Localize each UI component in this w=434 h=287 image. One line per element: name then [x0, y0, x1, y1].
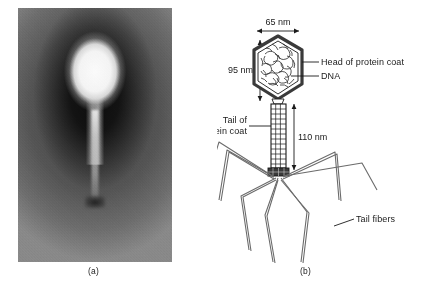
tail-fibers-label-leader: Tail fibers [334, 214, 396, 226]
tail-fiber-6b [283, 154, 341, 201]
phage-collar [272, 99, 284, 104]
tail-label-line2: protein coat [217, 126, 247, 136]
dna-label: DNA [321, 71, 340, 81]
tail-length-label: 110 nm [298, 132, 327, 142]
tail-label-line1: Tail of [223, 115, 248, 125]
tail-fibers [217, 142, 377, 263]
micrograph-tail-region [92, 110, 99, 201]
tail-sheath-body [271, 104, 286, 168]
tail-fiber-4 [265, 178, 278, 262]
head-width-label: 65 nm [265, 17, 290, 27]
tail-fiber-7 [284, 163, 377, 190]
tail-fiber-1b [221, 152, 274, 201]
head-height-label: 95 nm [228, 65, 253, 75]
head-label-leader: Head of protein coat [302, 57, 404, 67]
electron-micrograph-panel [18, 8, 172, 262]
micrograph-baseplate-region [85, 196, 105, 208]
capsid-head [254, 36, 302, 99]
phage-diagram-svg: 65 nm 95 nm [217, 0, 434, 287]
tail-fiber-5 [281, 178, 307, 262]
tail-fibers-label: Tail fibers [356, 214, 396, 224]
figure-container: (a) 65 nm 95 nm [0, 0, 434, 287]
panel-caption-b: (b) [300, 266, 311, 276]
head-width-dimension: 65 nm [257, 17, 299, 33]
head-label: Head of protein coat [321, 57, 404, 67]
tail-sheath [271, 104, 286, 168]
tail-fiber-1 [219, 150, 274, 200]
tail-length-dimension: 110 nm [292, 104, 328, 170]
tail-fiber-5b [281, 180, 309, 263]
tail-label-leader: Tail of protein coat [217, 115, 271, 136]
panel-caption-a: (a) [88, 266, 99, 276]
phage-diagram-panel: 65 nm 95 nm [217, 0, 434, 287]
bacteriophage-micrograph-image [18, 8, 172, 262]
